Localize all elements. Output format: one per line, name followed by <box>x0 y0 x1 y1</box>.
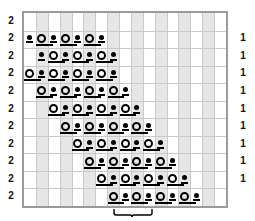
bobble-base-icon <box>145 199 152 201</box>
bobble-base-icon <box>26 41 33 43</box>
bobble-icon <box>111 70 116 75</box>
bobble-icon <box>194 193 199 198</box>
yarn-over-icon <box>109 157 118 166</box>
bobble-icon <box>111 175 116 180</box>
bobble-icon <box>170 158 175 163</box>
chart-grid <box>22 11 228 208</box>
row-label-left: 2 <box>4 174 18 184</box>
bobble-icon <box>75 35 80 40</box>
row-label-right: 1 <box>236 121 250 131</box>
row-label-left: 2 <box>4 156 18 166</box>
row-label-left: 2 <box>4 33 18 43</box>
bobble-base-icon <box>86 59 93 61</box>
yarn-over-icon <box>132 157 141 166</box>
bobble-icon <box>111 105 116 110</box>
bobble-base-icon <box>74 129 81 131</box>
bobble-base-icon <box>86 76 93 78</box>
chart-grid-inner <box>24 13 226 206</box>
yarn-over-icon <box>73 139 82 148</box>
bobble-base-icon <box>98 129 105 131</box>
row-label-left: 2 <box>4 86 18 96</box>
bobble-base-icon <box>98 41 105 43</box>
yarn-over-icon <box>85 122 94 131</box>
bobble-icon <box>146 123 151 128</box>
bobble-icon <box>99 123 104 128</box>
bobble-base-icon <box>169 164 176 166</box>
bobble-icon <box>87 140 92 145</box>
yarn-over-icon <box>156 192 165 201</box>
yarn-over-icon <box>109 192 118 201</box>
yarn-over-icon <box>109 122 118 131</box>
yarn-over-icon <box>73 69 82 78</box>
row-label-right: 1 <box>236 174 250 184</box>
bobble-icon <box>111 140 116 145</box>
bobble-base-icon <box>122 199 129 201</box>
bobble-icon <box>146 158 151 163</box>
bobble-base-icon <box>110 76 117 78</box>
bobble-base-icon <box>110 59 117 61</box>
row-label-right: 1 <box>236 68 250 78</box>
yarn-over-icon <box>121 104 130 113</box>
row-label-left: 2 <box>4 121 18 131</box>
bobble-base-icon <box>193 199 200 201</box>
row-label-left: 2 <box>4 139 18 149</box>
bobble-icon <box>123 123 128 128</box>
bobble-base-icon <box>98 94 105 96</box>
bobble-base-icon <box>110 112 117 114</box>
row-label-right: 1 <box>236 156 250 166</box>
bobble-icon <box>87 70 92 75</box>
bobble-icon <box>99 35 104 40</box>
row-label-left: 2 <box>4 191 18 201</box>
bobble-base-icon <box>169 199 176 201</box>
bobble-base-icon <box>74 41 81 43</box>
bobble-base-icon <box>122 94 129 96</box>
row-label-left: 2 <box>4 68 18 78</box>
yarn-over-icon <box>61 122 70 131</box>
grid-vline <box>202 13 203 206</box>
yarn-over-icon <box>180 192 189 201</box>
repeat-bracket <box>113 208 153 219</box>
bobble-base-icon <box>122 164 129 166</box>
bobble-icon <box>123 193 128 198</box>
yarn-over-icon <box>97 174 106 183</box>
bobble-base-icon <box>133 147 140 149</box>
bobble-base-icon <box>110 147 117 149</box>
bobble-base-icon <box>62 59 69 61</box>
row-label-right: 1 <box>236 104 250 114</box>
bobble-base-icon <box>98 164 105 166</box>
yarn-over-icon <box>97 104 106 113</box>
bobble-base-icon <box>157 182 164 184</box>
bobble-base-icon <box>122 129 129 131</box>
yarn-over-icon <box>132 122 141 131</box>
bobble-base-icon <box>145 164 152 166</box>
bobble-base-icon <box>74 94 81 96</box>
bobble-base-icon <box>157 147 164 149</box>
bobble-base-icon <box>86 147 93 149</box>
bobble-icon <box>123 158 128 163</box>
row-label-right: 1 <box>236 33 250 43</box>
bobble-base-icon <box>62 76 69 78</box>
bobble-icon <box>87 105 92 110</box>
row-label-left: 2 <box>4 16 18 26</box>
yarn-over-icon <box>121 139 130 148</box>
column-stripe <box>202 13 214 206</box>
bobble-base-icon <box>181 182 188 184</box>
bobble-icon <box>75 123 80 128</box>
bobble-base-icon <box>50 41 57 43</box>
bobble-base-icon <box>86 112 93 114</box>
row-label-right: 1 <box>236 139 250 149</box>
bobble-base-icon <box>110 182 117 184</box>
yarn-over-icon <box>121 174 130 183</box>
bobble-icon <box>170 193 175 198</box>
bobble-base-icon <box>145 129 152 131</box>
row-label-left: 2 <box>4 51 18 61</box>
bobble-base-icon <box>133 182 140 184</box>
bobble-base-icon <box>38 59 45 61</box>
yarn-over-icon <box>97 69 106 78</box>
yarn-over-icon <box>61 34 70 43</box>
stitch-chart: 22222222222 111111111 <box>0 0 255 221</box>
bobble-base-icon <box>50 94 57 96</box>
row-label-right: 1 <box>236 86 250 96</box>
yarn-over-icon <box>73 104 82 113</box>
yarn-over-icon <box>85 34 94 43</box>
